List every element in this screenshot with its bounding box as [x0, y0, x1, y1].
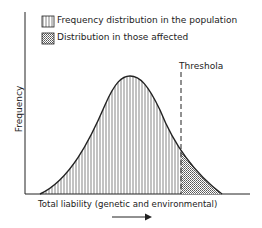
legend-label-population: Frequency distribution in the population	[57, 15, 237, 25]
x-axis-label: Total liability (genetic and environment…	[38, 199, 217, 209]
threshold-label: Threshola	[179, 61, 223, 71]
right-arrow-icon	[112, 214, 152, 221]
y-axis-label: Frequency	[14, 86, 24, 133]
legend-swatch-population-icon	[42, 16, 54, 27]
population-distribution-area	[40, 76, 222, 194]
legend-label-affected: Distribution in those affected	[57, 32, 188, 42]
legend-swatch-affected-icon	[42, 33, 54, 44]
